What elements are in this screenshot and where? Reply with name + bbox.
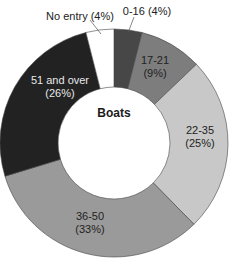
label-22-35-pct: (25%) xyxy=(185,137,214,149)
label-17-21-pct: (9%) xyxy=(143,67,166,79)
label-0-16: 0-16 (4%) xyxy=(123,5,171,17)
label-no-entry: No entry (4%) xyxy=(46,10,114,22)
label-51-and-over: 51 and over xyxy=(31,74,89,86)
donut-chart: 0-16 (4%) No entry (4%) 17-21 (9%) 22-35… xyxy=(0,0,230,277)
label-36-50: 36-50 xyxy=(76,210,104,222)
label-22-35: 22-35 xyxy=(186,124,214,136)
label-51-and-over-pct: (26%) xyxy=(45,87,74,99)
slice-51-and-over xyxy=(0,33,100,177)
chart-title: Boats xyxy=(97,106,131,120)
label-36-50-pct: (33%) xyxy=(75,223,104,235)
label-17-21: 17-21 xyxy=(141,54,169,66)
